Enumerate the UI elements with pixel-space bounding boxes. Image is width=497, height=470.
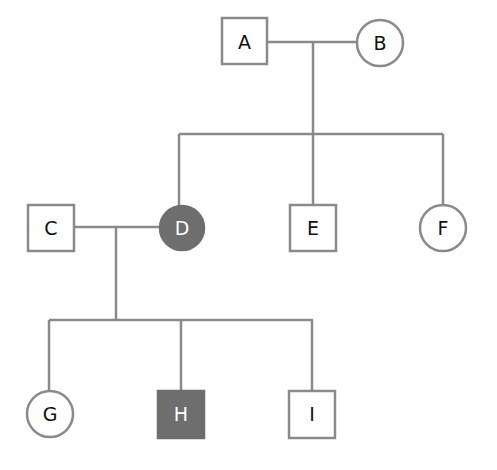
pedigree-diagram: A B C D E F G H I <box>0 0 497 470</box>
individual-d: D <box>160 206 204 250</box>
individual-h: H <box>158 391 204 438</box>
label-g: G <box>43 403 58 425</box>
individual-c: C <box>28 205 74 251</box>
label-i: I <box>309 403 315 425</box>
individual-b: B <box>357 20 403 66</box>
individual-a: A <box>222 18 267 64</box>
label-h: H <box>174 403 188 425</box>
label-a: A <box>238 31 251 53</box>
individual-i: I <box>289 391 335 438</box>
label-b: B <box>373 32 386 54</box>
connector-lines <box>49 42 443 391</box>
label-d: D <box>175 217 190 239</box>
individual-e: E <box>290 205 336 251</box>
label-e: E <box>307 217 319 239</box>
label-c: C <box>44 217 57 239</box>
individual-g: G <box>27 391 73 437</box>
label-f: F <box>438 217 449 239</box>
individual-f: F <box>420 205 466 251</box>
